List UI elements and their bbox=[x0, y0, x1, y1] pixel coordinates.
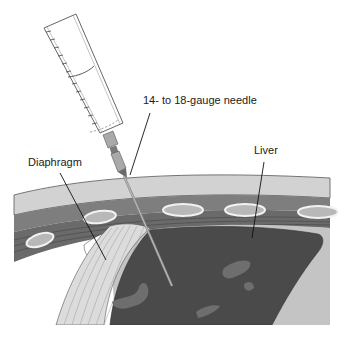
diaphragm-label: Diaphragm bbox=[28, 157, 82, 168]
rib-4 bbox=[225, 204, 265, 216]
needle-leader-line bbox=[130, 113, 150, 175]
needle-hub bbox=[111, 151, 126, 172]
needle-procedure-diagram: 14- to 18-gauge needle Diaphragm Liver bbox=[0, 0, 350, 341]
bottom-margin bbox=[0, 325, 350, 341]
liver-label: Liver bbox=[254, 145, 278, 156]
rib-3 bbox=[163, 204, 203, 216]
needle-label: 14- to 18-gauge needle bbox=[143, 95, 257, 106]
anatomy-illustration bbox=[0, 0, 350, 341]
syringe-hub bbox=[103, 131, 118, 148]
rib-5 bbox=[298, 206, 338, 218]
syringe bbox=[44, 14, 127, 178]
